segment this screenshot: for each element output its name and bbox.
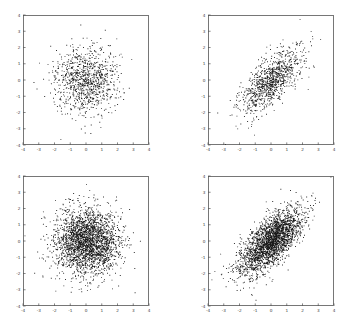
x-tick-label: 4 xyxy=(148,308,151,313)
x-tick-label: -1 xyxy=(253,147,258,152)
x-tick-label: 4 xyxy=(148,147,151,152)
x-tick-label: -2 xyxy=(237,308,242,313)
y-tick-label: 4 xyxy=(203,13,206,18)
x-tick-label: -4 xyxy=(21,147,26,152)
y-tick-label: 1 xyxy=(203,222,206,227)
y-tick-label: -1 xyxy=(16,94,21,99)
x-tick-label: -1 xyxy=(68,147,73,152)
x-tick-label: -2 xyxy=(52,147,57,152)
y-tick-label: 2 xyxy=(203,206,206,211)
y-tick-label: 0 xyxy=(203,78,206,83)
y-tick-label: -2 xyxy=(16,271,21,276)
y-tick-label: 3 xyxy=(18,29,21,34)
x-tick-label: 3 xyxy=(317,147,320,152)
x-tick-label: 0 xyxy=(270,308,273,313)
y-tick-label: 1 xyxy=(203,61,206,66)
scatter-panel-top-right: -4-3-2-101234-4-3-2-101234 xyxy=(208,15,334,145)
x-tick-label: -3 xyxy=(222,147,227,152)
x-tick-label: 1 xyxy=(285,308,288,313)
x-tick-label: 2 xyxy=(301,147,304,152)
scatter-matrix-figure: -4-3-2-101234-4-3-2-101234 -4-3-2-101234… xyxy=(0,0,362,322)
x-tick-label: 2 xyxy=(301,308,304,313)
y-tick-label: 3 xyxy=(203,190,206,195)
x-tick-label: 2 xyxy=(116,308,119,313)
x-tick-label: -4 xyxy=(206,147,211,152)
x-tick-label: -4 xyxy=(21,308,26,313)
x-tick-label: -4 xyxy=(206,308,211,313)
y-tick-label: 0 xyxy=(18,239,21,244)
y-tick-label: -1 xyxy=(201,94,206,99)
x-tick-label: 3 xyxy=(132,147,135,152)
x-tick-label: 2 xyxy=(116,147,119,152)
y-tick-label: -4 xyxy=(16,304,21,309)
x-tick-label: -3 xyxy=(37,308,42,313)
plot-frame xyxy=(24,16,149,145)
x-tick-label: -1 xyxy=(68,308,73,313)
x-tick-label: -2 xyxy=(52,308,57,313)
y-tick-label: 1 xyxy=(18,61,21,66)
y-tick-label: 3 xyxy=(203,29,206,34)
y-tick-label: 4 xyxy=(203,174,206,179)
scatter-panel-bottom-left: -4-3-2-101234-4-3-2-101234 xyxy=(23,176,149,306)
x-tick-label: 3 xyxy=(132,308,135,313)
y-tick-label: 2 xyxy=(18,45,21,50)
x-tick-label: 1 xyxy=(100,147,103,152)
y-tick-label: 2 xyxy=(18,206,21,211)
x-tick-label: 1 xyxy=(285,147,288,152)
y-tick-label: -3 xyxy=(201,287,206,292)
y-tick-label: -3 xyxy=(16,126,21,131)
x-tick-label: 0 xyxy=(85,147,88,152)
y-tick-label: 3 xyxy=(18,190,21,195)
y-tick-label: -4 xyxy=(201,304,206,309)
y-tick-label: 2 xyxy=(203,45,206,50)
y-tick-label: 1 xyxy=(18,222,21,227)
x-tick-label: 1 xyxy=(100,308,103,313)
x-tick-label: 4 xyxy=(333,308,336,313)
x-tick-label: -3 xyxy=(37,147,42,152)
y-tick-label: 0 xyxy=(18,78,21,83)
x-tick-label: 3 xyxy=(317,308,320,313)
scatter-panel-bottom-right: -4-3-2-101234-4-3-2-101234 xyxy=(208,176,334,306)
y-tick-label: -3 xyxy=(201,126,206,131)
y-tick-label: 4 xyxy=(18,174,21,179)
y-tick-label: -2 xyxy=(201,271,206,276)
y-tick-label: -1 xyxy=(201,255,206,260)
y-tick-label: 0 xyxy=(203,239,206,244)
x-tick-label: 0 xyxy=(270,147,273,152)
x-tick-label: -2 xyxy=(237,147,242,152)
x-tick-label: 4 xyxy=(333,147,336,152)
y-tick-label: -1 xyxy=(16,255,21,260)
y-tick-label: -4 xyxy=(201,143,206,148)
scatter-panel-top-left: -4-3-2-101234-4-3-2-101234 xyxy=(23,15,149,145)
y-tick-label: 4 xyxy=(18,13,21,18)
y-tick-label: -2 xyxy=(201,110,206,115)
y-tick-label: -2 xyxy=(16,110,21,115)
x-tick-label: 0 xyxy=(85,308,88,313)
y-tick-label: -4 xyxy=(16,143,21,148)
x-tick-label: -3 xyxy=(222,308,227,313)
x-tick-label: -1 xyxy=(253,308,258,313)
y-tick-label: -3 xyxy=(16,287,21,292)
